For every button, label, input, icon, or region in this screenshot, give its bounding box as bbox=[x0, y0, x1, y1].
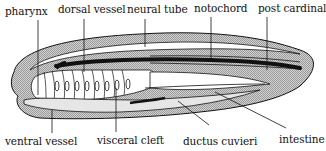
label-neural-tube: neural tube bbox=[127, 3, 188, 15]
label-ventral-vessel: ventral vessel bbox=[5, 135, 77, 147]
label-visceral-cleft: visceral cleft bbox=[97, 134, 164, 146]
label-post-cardinal: post cardinal bbox=[258, 2, 326, 14]
label-intestine: intestine bbox=[279, 133, 325, 145]
label-ductus-cuvieri: ductus cuvieri bbox=[183, 135, 257, 147]
label-pharynx: pharynx bbox=[5, 5, 48, 17]
label-notochord: notochord bbox=[194, 2, 247, 14]
label-dorsal-vessel: dorsal vessel bbox=[58, 3, 126, 15]
